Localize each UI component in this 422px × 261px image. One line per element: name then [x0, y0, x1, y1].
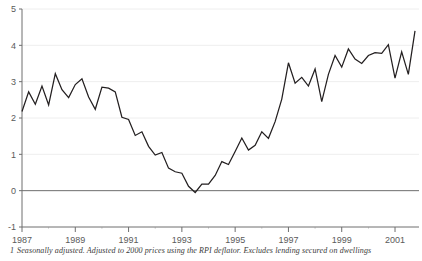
data-series-line	[22, 31, 415, 193]
x-tick-label: 1993	[172, 235, 192, 245]
y-tick-label: -1	[8, 222, 16, 232]
series-line	[22, 31, 415, 193]
line-chart-plot: -1012345 1987198919911993199519971999200…	[0, 0, 422, 245]
x-tick-label: 1991	[119, 235, 139, 245]
x-tick-label: 2001	[385, 235, 405, 245]
y-tick-label: 1	[11, 150, 16, 160]
x-tick-label: 1995	[225, 235, 245, 245]
y-tick-label: 4	[11, 41, 16, 51]
x-axis-ticks	[22, 227, 395, 232]
y-tick-label: 5	[11, 4, 16, 14]
x-tick-label: 1987	[12, 235, 32, 245]
chart-figure: -1012345 1987198919911993199519971999200…	[0, 0, 422, 261]
y-tick-label: 0	[11, 186, 16, 196]
y-axis-tick-labels: -1012345	[8, 4, 16, 232]
x-tick-label: 1989	[65, 235, 85, 245]
y-tick-label: 2	[11, 113, 16, 123]
footnote-text: Seasonally adjusted. Adjusted to 2000 pr…	[17, 246, 371, 255]
chart-footnote: 1Seasonally adjusted. Adjusted to 2000 p…	[10, 246, 420, 255]
gridlines	[22, 9, 419, 154]
x-tick-label: 1997	[278, 235, 298, 245]
footnote-marker: 1	[10, 246, 14, 255]
x-axis-tick-labels: 19871989199119931995199719992001	[12, 235, 405, 245]
y-tick-label: 3	[11, 77, 16, 87]
x-tick-label: 1999	[332, 235, 352, 245]
